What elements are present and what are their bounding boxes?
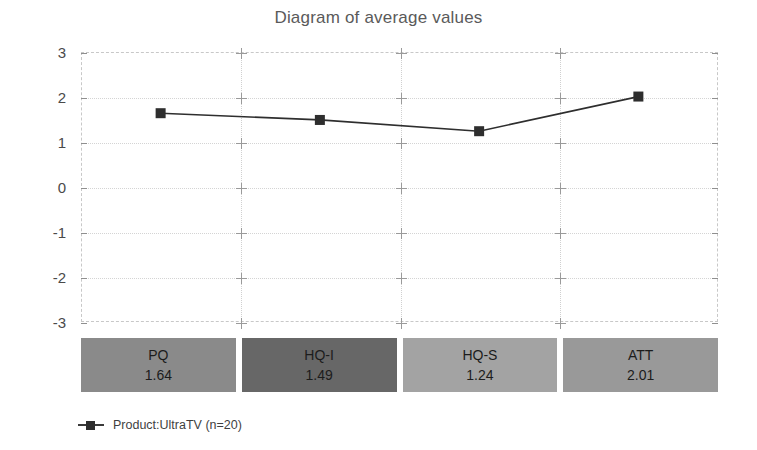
legend-label: Product:UltraTV (n=20)	[113, 418, 242, 432]
chart-title: Diagram of average values	[0, 8, 757, 28]
value-table-cell: HQ-I1.49	[242, 338, 397, 392]
y-axis-tick-label: -3	[6, 314, 66, 331]
value-table-cell-value: 2.01	[627, 365, 654, 385]
value-table-cell-label: ATT	[628, 345, 653, 365]
chart-root: Diagram of average values 3210-1-2-3 PQ1…	[0, 0, 757, 450]
y-axis-tick-label: 1	[6, 134, 66, 151]
y-axis-tick-label: -2	[6, 269, 66, 286]
value-table: PQ1.64HQ-I1.49HQ-S1.24ATT2.01	[81, 338, 718, 392]
value-table-cell: HQ-S1.24	[403, 338, 558, 392]
series-data-point	[633, 92, 643, 102]
series-data-point	[474, 126, 484, 136]
series-line	[161, 97, 639, 132]
value-table-cell-value: 1.64	[145, 365, 172, 385]
y-axis-tick-label: -1	[6, 224, 66, 241]
value-table-cell: PQ1.64	[81, 338, 236, 392]
value-table-cell: ATT2.01	[563, 338, 718, 392]
value-table-cell-label: HQ-S	[462, 345, 497, 365]
y-axis-tick-label: 2	[6, 89, 66, 106]
y-axis-label-group: 3210-1-2-3	[0, 52, 66, 322]
y-axis-tick-label: 3	[6, 44, 66, 61]
series-marker-group	[156, 92, 644, 137]
value-table-cell-label: HQ-I	[304, 345, 334, 365]
value-table-cell-value: 1.24	[466, 365, 493, 385]
value-table-cell-label: PQ	[148, 345, 168, 365]
y-tick-mark-left	[81, 323, 87, 324]
chart-legend: Product:UltraTV (n=20)	[78, 418, 242, 432]
series-data-point	[315, 115, 325, 125]
value-table-cell-value: 1.49	[306, 365, 333, 385]
legend-square-icon	[86, 421, 95, 430]
legend-marker-icon	[78, 419, 104, 431]
series-data-point	[156, 108, 166, 118]
series-layer	[81, 52, 718, 322]
y-axis-tick-label: 0	[6, 179, 66, 196]
y-tick-mark-right	[712, 323, 718, 324]
